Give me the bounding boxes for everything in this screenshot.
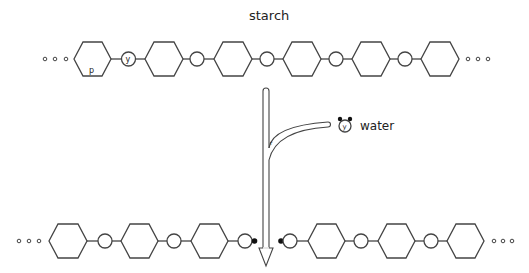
linker-atom-3 [260,52,274,66]
ellipsis-left-bottom-icon [17,239,41,243]
linker-atom-b4 [283,234,297,248]
linker-atom-5 [398,52,412,66]
glucose-ring-b1 [49,224,87,258]
linker-label-y: y [126,55,131,64]
linker-atom-b3 [238,234,252,248]
glucose-ring-b6 [447,224,484,258]
glucose-ring-b4 [308,224,345,258]
glucose-ring-b2 [121,224,158,258]
top-starch-chain: p y [43,42,490,76]
glucose-ring-2 [145,42,183,76]
glucose-ring-3 [214,42,252,76]
title-starch: starch [249,8,289,23]
linker-atom-4 [329,52,343,66]
ellipsis-left-icon [43,57,68,61]
bottom-left-fragment [17,224,257,258]
glucose-ring-b5 [378,224,415,258]
glucose-ring-5 [352,42,390,76]
linker-atom-b1 [98,234,112,248]
glucose-ring-6 [421,42,459,76]
glucose-ring-b3 [191,224,228,258]
linker-atom-b2 [167,234,181,248]
water-label: water [360,119,394,133]
bottom-right-fragment [278,224,514,258]
water-molecule-icon: y [338,117,352,132]
water-center-label: y [343,123,347,131]
ellipsis-right-icon [466,57,490,61]
linker-atom-b5 [354,234,368,248]
glucose-ring-4 [283,42,321,76]
end-atom-filled-icon [252,238,258,244]
linker-atom-b6 [424,234,438,248]
starch-hydrolysis-diagram: starch p y [0,0,529,273]
linker-atom-2 [190,52,204,66]
ellipsis-right-bottom-icon [492,239,514,243]
ring-label-p: p [89,66,94,75]
